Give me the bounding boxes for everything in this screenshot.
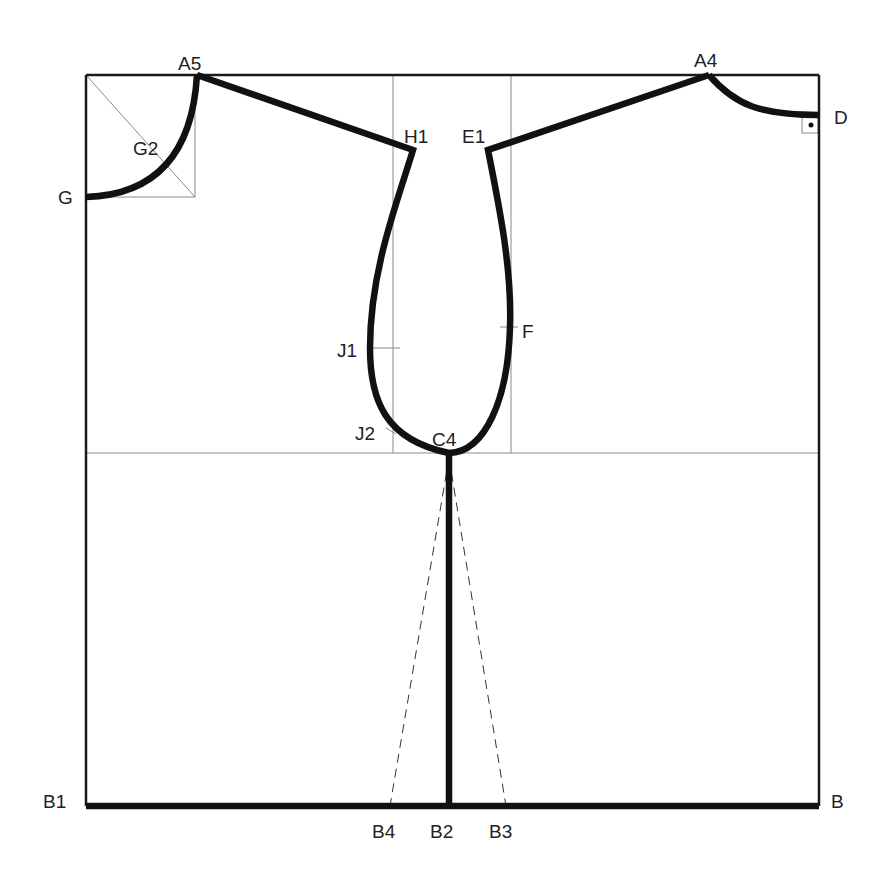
- front-neckline-curve: [709, 75, 819, 115]
- neck-diagonal: [86, 75, 195, 197]
- label-g2: G2: [133, 138, 158, 159]
- label-e1: E1: [462, 126, 485, 147]
- pattern-diagram: A5 A4 D G G2 H1 E1 J1 F J2 C4 B1 B B4 B2…: [0, 0, 893, 881]
- label-a5: A5: [178, 53, 201, 74]
- label-c4: C4: [432, 429, 457, 450]
- label-f: F: [522, 321, 534, 342]
- label-d: D: [834, 107, 848, 128]
- guide-lines: [86, 75, 819, 453]
- dart-line-left: [390, 458, 449, 806]
- label-j1: J1: [337, 340, 357, 361]
- label-b2: B2: [430, 821, 453, 842]
- right-angle-dot-d: [809, 123, 814, 128]
- label-b3: B3: [489, 821, 512, 842]
- label-a4: A4: [694, 50, 718, 71]
- label-b4: B4: [372, 821, 396, 842]
- label-b: B: [831, 791, 844, 812]
- label-j2: J2: [355, 423, 375, 444]
- label-b1: B1: [43, 791, 66, 812]
- label-h1: H1: [404, 126, 428, 147]
- shoulder-right-and-armhole-right: [449, 75, 709, 453]
- label-g: G: [58, 187, 73, 208]
- dart-line-right: [449, 458, 506, 806]
